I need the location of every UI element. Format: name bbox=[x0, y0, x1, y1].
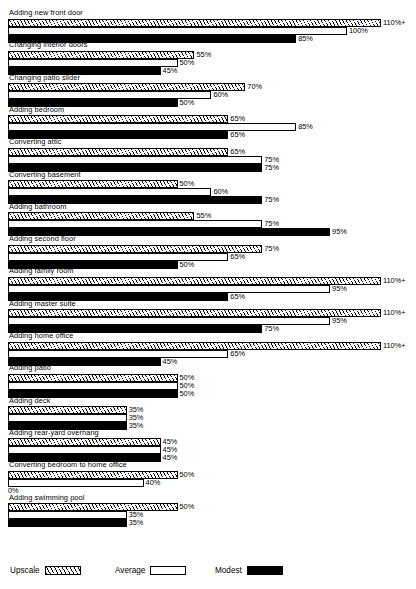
bar-value-label: 75% bbox=[264, 244, 279, 253]
bar-value-label: 60% bbox=[213, 90, 228, 99]
bar-value-label: 110%+ bbox=[383, 341, 406, 350]
bar-row: 50% bbox=[8, 382, 416, 390]
bar-value-label: 65% bbox=[230, 292, 245, 301]
bar-average bbox=[8, 27, 347, 35]
category-label: Adding family room bbox=[9, 267, 74, 275]
bar-value-label: 65% bbox=[230, 130, 245, 139]
bar-value-label: 65% bbox=[230, 252, 245, 261]
bar-row: 45% bbox=[8, 438, 416, 446]
legend-swatch bbox=[150, 566, 186, 575]
bar-row: 50% bbox=[8, 390, 416, 398]
bar-upscale bbox=[8, 342, 381, 350]
bar-value-label: 55% bbox=[196, 211, 211, 220]
chart-legend: UpscaleAverageModest bbox=[0, 563, 416, 581]
bar-value-label: 65% bbox=[230, 114, 245, 123]
bar-row: 35% bbox=[8, 519, 416, 527]
bar-value-label: 65% bbox=[230, 349, 245, 358]
bar-average bbox=[8, 350, 228, 358]
bar-row: 75% bbox=[8, 156, 416, 164]
bar-value-label: 50% bbox=[180, 58, 195, 67]
bar-row: 85% bbox=[8, 123, 416, 131]
bar-chart: Adding new front door110%+100%85%Changin… bbox=[0, 0, 416, 589]
bar-average bbox=[8, 156, 262, 164]
legend-label: Upscale bbox=[10, 566, 40, 575]
legend-item: Average bbox=[115, 563, 186, 577]
bar-row: 55% bbox=[8, 51, 416, 59]
bar-value-label: 35% bbox=[129, 518, 144, 527]
bar-value-label: 55% bbox=[196, 50, 211, 59]
bar-row: 95% bbox=[8, 317, 416, 325]
bar-upscale bbox=[8, 503, 178, 511]
bar-row: 110%+ bbox=[8, 342, 416, 350]
bar-row: 40% bbox=[8, 479, 416, 487]
bar-average bbox=[8, 446, 161, 454]
bar-row: 35% bbox=[8, 511, 416, 519]
bar-average bbox=[8, 511, 127, 519]
bar-average bbox=[8, 317, 330, 325]
bar-row: 65% bbox=[8, 253, 416, 261]
bar-value-label: 85% bbox=[298, 122, 313, 131]
category-label: Adding swimming pool bbox=[9, 494, 84, 502]
bar-value-label: 75% bbox=[264, 195, 279, 204]
bar-value-label: 40% bbox=[146, 478, 161, 487]
bar-average bbox=[8, 188, 211, 196]
bar-average bbox=[8, 253, 228, 261]
bar-row: 50% bbox=[8, 180, 416, 188]
bar-value-label: 45% bbox=[163, 453, 178, 462]
bar-row: 100% bbox=[8, 27, 416, 35]
bar-row: 55% bbox=[8, 212, 416, 220]
bar-row: 50% bbox=[8, 59, 416, 67]
legend-label: Average bbox=[115, 566, 145, 575]
bar-upscale bbox=[8, 374, 178, 382]
bar-value-label: 95% bbox=[332, 284, 347, 293]
bar-value-label: 45% bbox=[163, 66, 178, 75]
bar-upscale bbox=[8, 277, 381, 285]
bar-value-label: 75% bbox=[264, 324, 279, 333]
bar-row: 75% bbox=[8, 245, 416, 253]
bar-value-label: 95% bbox=[332, 316, 347, 325]
category-label: Converting bedroom to home office bbox=[9, 461, 127, 469]
bar-average bbox=[8, 123, 296, 131]
bar-upscale bbox=[8, 51, 194, 59]
bar-average bbox=[8, 382, 178, 390]
legend-swatch bbox=[247, 566, 283, 575]
bar-row: 65% bbox=[8, 115, 416, 123]
bar-row: 45% bbox=[8, 446, 416, 454]
category-label: Converting attic bbox=[9, 138, 62, 146]
bar-upscale bbox=[8, 438, 161, 446]
bar-value-label: 50% bbox=[180, 179, 195, 188]
bar-row: 70% bbox=[8, 83, 416, 91]
bar-value-label: 95% bbox=[332, 227, 347, 236]
bar-value-label: 50% bbox=[180, 470, 195, 479]
category-label: Changing interior doors bbox=[9, 41, 88, 49]
category-label: Adding deck bbox=[9, 397, 51, 405]
bar-row: 75% bbox=[8, 196, 416, 204]
bar-upscale bbox=[8, 180, 178, 188]
bar-value-label: 100% bbox=[349, 26, 368, 35]
bar-value-label: 65% bbox=[230, 147, 245, 156]
bar-row: 35% bbox=[8, 414, 416, 422]
bar-row: 35% bbox=[8, 406, 416, 414]
bar-upscale bbox=[8, 212, 194, 220]
bar-value-label: 85% bbox=[298, 34, 313, 43]
bar-row: 110%+ bbox=[8, 309, 416, 317]
category-label: Adding rear-yard overhang bbox=[9, 429, 99, 437]
bar-upscale bbox=[8, 19, 381, 27]
bar-row: 60% bbox=[8, 91, 416, 99]
legend-item: Upscale bbox=[10, 563, 81, 577]
bar-value-label: 60% bbox=[213, 187, 228, 196]
bar-average bbox=[8, 285, 330, 293]
bar-row: 65% bbox=[8, 350, 416, 358]
bar-row: 50% bbox=[8, 99, 416, 107]
category-label: Adding bedroom bbox=[9, 106, 64, 114]
category-label: Adding second floor bbox=[9, 235, 76, 243]
category-label: Adding home office bbox=[9, 332, 73, 340]
bar-average bbox=[8, 220, 262, 228]
bar-value-label: 50% bbox=[180, 98, 195, 107]
bar-average bbox=[8, 479, 144, 487]
bar-row: 95% bbox=[8, 285, 416, 293]
bar-upscale bbox=[8, 115, 228, 123]
bar-upscale bbox=[8, 406, 127, 414]
bar-row: 110%+ bbox=[8, 277, 416, 285]
bar-row: 65% bbox=[8, 131, 416, 139]
